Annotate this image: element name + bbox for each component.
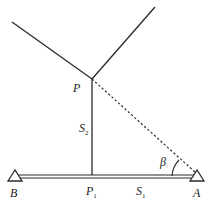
point-b-label: B (10, 186, 18, 200)
segment-s1-label: S1 (136, 184, 146, 200)
upper-right-line (92, 7, 155, 79)
segment-s2-label: S2 (79, 121, 89, 137)
point-a-label: A (192, 186, 201, 200)
dashed-line-pa (92, 79, 196, 173)
angle-beta-arc (172, 160, 179, 176)
point-p1-label: P1 (85, 184, 97, 200)
upper-left-line (12, 22, 92, 79)
point-p-label: P (72, 81, 81, 95)
geometry-diagram: P S2 β B P1 S1 A (0, 0, 211, 210)
angle-beta-label: β (159, 155, 166, 169)
